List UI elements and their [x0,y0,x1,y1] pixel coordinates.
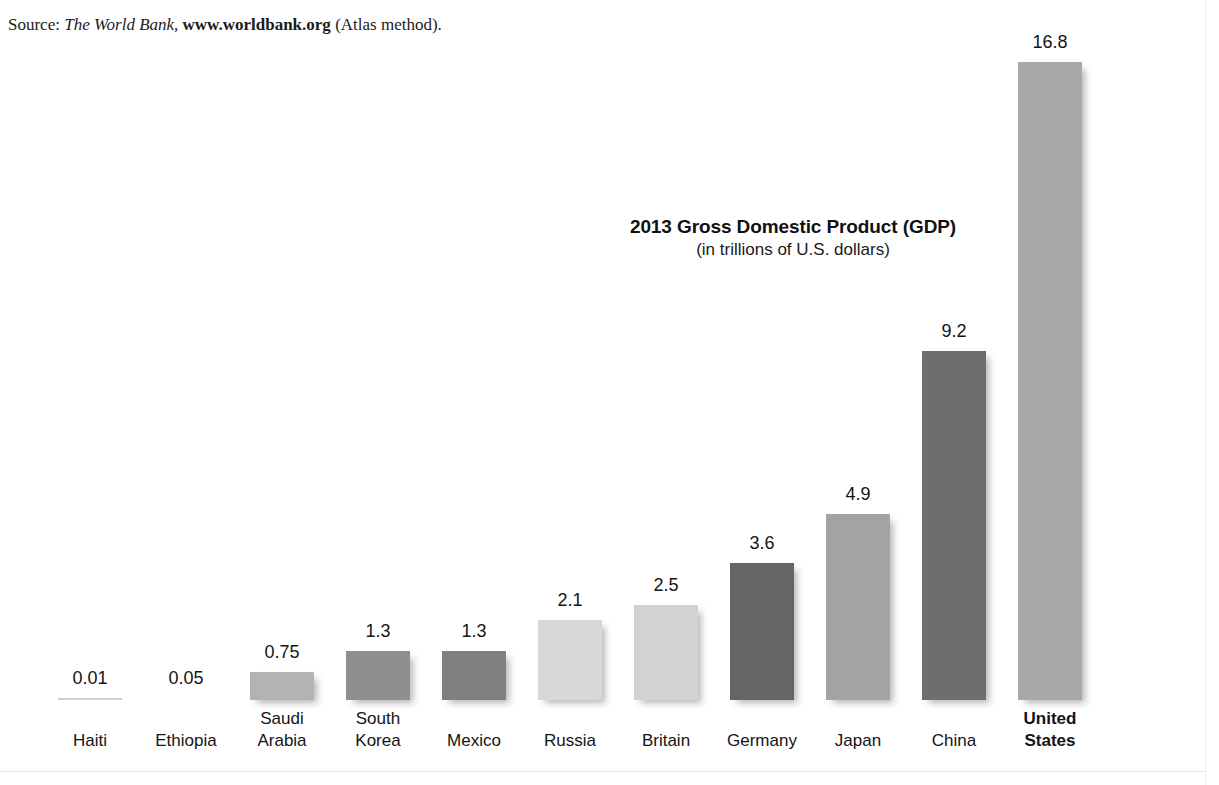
bar-column [618,50,714,700]
bar-category-label: SouthKorea [330,708,426,752]
bar-value-label: 1.3 [330,621,426,642]
bar-value-label: 0.05 [138,668,234,689]
bar-category-label: SaudiArabia [234,708,330,752]
bar-chart-plot-area: 0.01Haiti0.05Ethiopia0.75SaudiArabia1.3S… [0,0,1219,785]
category-label-line1: South [330,708,426,730]
bar-category-ethiopia: 0.05Ethiopia [138,0,234,785]
bar-category-label: Japan [810,730,906,752]
bar-column [234,50,330,700]
bar-value-label: 0.75 [234,642,330,663]
category-label-line1: Ethiopia [138,730,234,752]
bar-value-label: 4.9 [810,484,906,505]
bar-category-saudi-arabia: 0.75SaudiArabia [234,0,330,785]
bar-category-label: Haiti [42,730,138,752]
category-label-line1: Haiti [42,730,138,752]
bar[interactable] [730,563,794,700]
bar-value-label: 1.3 [426,621,522,642]
category-label-line1: Russia [522,730,618,752]
bar[interactable] [58,698,122,700]
category-label-line1: Japan [810,730,906,752]
bar-category-label: Ethiopia [138,730,234,752]
bar-category-russia: 2.1Russia [522,0,618,785]
category-label-line2: Korea [330,730,426,752]
bar[interactable] [826,514,890,700]
category-label-line1: China [906,730,1002,752]
bar-column [906,50,1002,700]
bar-column [714,50,810,700]
bar-category-china: 9.2China [906,0,1002,785]
bar-value-label: 2.5 [618,575,714,596]
category-label-line1: United [1002,708,1098,730]
bar-column [810,50,906,700]
bar[interactable] [922,351,986,700]
category-label-line2: States [1002,730,1098,752]
page-edge-right [1205,0,1206,785]
bar[interactable] [250,672,314,700]
bar-column [138,50,234,700]
category-label-line1: Saudi [234,708,330,730]
category-label-line1: Mexico [426,730,522,752]
bar-category-japan: 4.9Japan [810,0,906,785]
bar-column [330,50,426,700]
bar[interactable] [442,651,506,700]
bar-category-label: Britain [618,730,714,752]
bar-category-germany: 3.6Germany [714,0,810,785]
bar[interactable] [346,651,410,700]
bar-value-label: 16.8 [1002,32,1098,53]
bar-value-label: 0.01 [42,668,138,689]
bar-column [42,50,138,700]
bar-category-label: Germany [714,730,810,752]
category-label-line1: Germany [714,730,810,752]
bar-category-label: UnitedStates [1002,708,1098,752]
bar-value-label: 2.1 [522,590,618,611]
bar-category-mexico: 1.3Mexico [426,0,522,785]
category-label-line1: Britain [618,730,714,752]
bar-category-britain: 2.5Britain [618,0,714,785]
bar[interactable] [634,605,698,700]
bar-category-label: Mexico [426,730,522,752]
bar[interactable] [1018,62,1082,700]
bar-category-label: China [906,730,1002,752]
bar-column [426,50,522,700]
page-edge-bottom [0,771,1205,772]
bar-category-united-states: 16.8UnitedStates [1002,0,1098,785]
bar[interactable] [538,620,602,700]
category-label-line2: Arabia [234,730,330,752]
bar-value-label: 9.2 [906,321,1002,342]
bar-category-haiti: 0.01Haiti [42,0,138,785]
bar-category-south-korea: 1.3SouthKorea [330,0,426,785]
bar-column [1002,50,1098,700]
bar-category-label: Russia [522,730,618,752]
bar-value-label: 3.6 [714,533,810,554]
